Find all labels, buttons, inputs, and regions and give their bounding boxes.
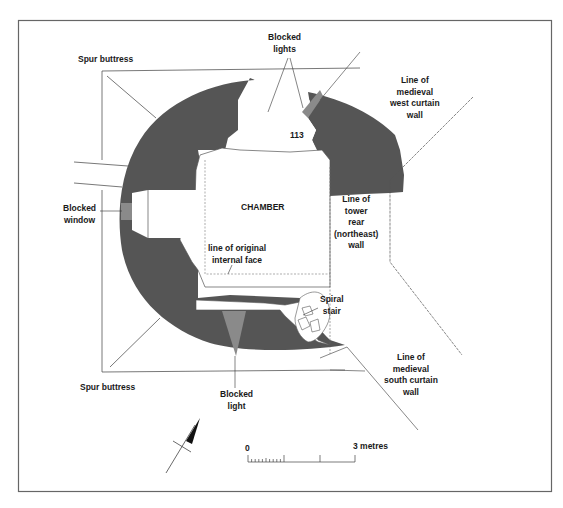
label-tower-rear: Line of tower rear (northeast) wall — [334, 194, 378, 252]
scale-end-label: 3 metres — [353, 441, 388, 453]
label-spiral-stair: Spiral stair — [320, 294, 344, 317]
buttress-diagonal-bottom — [110, 318, 160, 367]
scale-bar — [248, 455, 355, 462]
window-reveal — [148, 190, 200, 238]
scale-start-label: 0 — [245, 443, 250, 455]
tower-plan-diagram — [0, 0, 563, 508]
label-room-number: 113 — [290, 130, 304, 142]
label-south-curtain: Line of medieval south curtain wall — [384, 352, 438, 398]
window-opening — [132, 190, 148, 238]
label-spur-buttress-bottom: Spur buttress — [80, 382, 135, 394]
chamber — [180, 148, 330, 287]
label-blocked-light: Blocked light — [220, 389, 253, 412]
west-curtain-line-inner — [390, 97, 473, 355]
blocked-window — [121, 203, 132, 220]
spur-line-2 — [74, 183, 122, 187]
label-west-curtain: Line of medieval west curtain wall — [390, 75, 440, 121]
blocked-light-opening — [238, 78, 283, 150]
west-curtain-extension — [330, 370, 365, 371]
label-original-face: line of original internal face — [208, 243, 266, 266]
label-blocked-lights: Blocked lights — [268, 32, 301, 55]
spur-line-1 — [74, 162, 128, 166]
leader-blocked-lights-2 — [290, 58, 303, 108]
west-curtain-line-outer — [320, 52, 360, 100]
label-chamber: CHAMBER — [241, 202, 284, 214]
label-blocked-window: Blocked window — [63, 203, 96, 226]
label-spur-buttress-top: Spur buttress — [78, 54, 133, 66]
north-arrow-icon — [166, 418, 200, 473]
buttress-diagonal-top — [107, 76, 156, 118]
